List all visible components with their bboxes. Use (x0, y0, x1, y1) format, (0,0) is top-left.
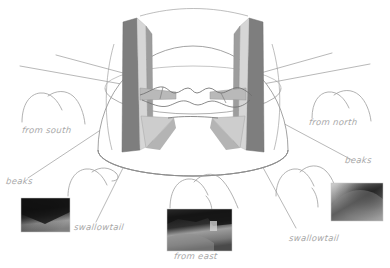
photo-inset-east (167, 209, 232, 251)
sketch-beaks-east (170, 174, 238, 212)
label-swallowtail-left: swallowtail (73, 222, 124, 232)
label-swallowtail-right: swallowtail (288, 233, 339, 243)
sketch-beaks-south (22, 92, 85, 125)
crest-arc (140, 9, 248, 17)
sketch-beaks-lower-right (276, 166, 338, 207)
label-from-south: from south (21, 125, 71, 135)
label-from-east: from east (173, 251, 218, 261)
dome-structure (98, 9, 288, 177)
label-from-north: from north (308, 117, 358, 127)
photo-inset-southwest (21, 198, 70, 232)
label-beaks-left: beaks (5, 176, 33, 186)
photo-inset-northeast (331, 183, 383, 221)
label-beaks-right: beaks (344, 155, 372, 165)
sketch-beaks-lower-left (68, 168, 118, 196)
figure-canvas: from south from north from east beaks be… (0, 0, 390, 268)
